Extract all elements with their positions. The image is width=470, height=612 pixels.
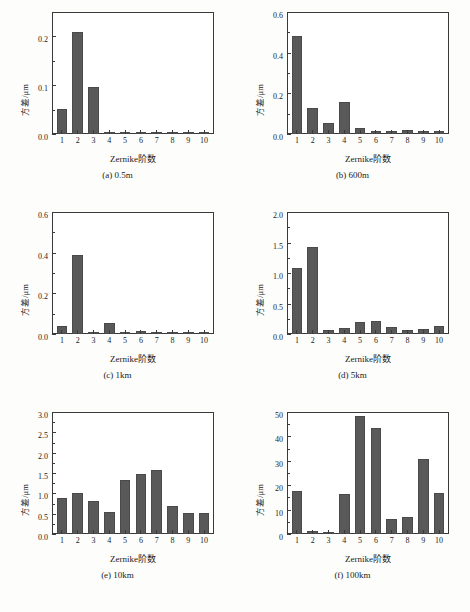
bar-slot [133,212,149,334]
x-axis-title: Zernike阶数 [52,352,214,365]
x-tick-mark [125,530,126,534]
x-tick-label: 10 [200,536,208,545]
x-tick-label: 2 [76,136,80,145]
x-tick-label: 2 [76,336,80,345]
bar-slot [400,12,416,134]
x-tick-label: 6 [374,136,378,145]
x-tick-label: 10 [200,336,208,345]
bar-slot [321,412,337,534]
chart-panel-b: 方差/μm0.00.20.40.612345678910Zernike阶数(b)… [235,0,470,200]
x-tick-label: 10 [435,336,443,345]
x-tick-label: 1 [60,136,64,145]
bar-slot [415,412,431,534]
x-tick-label: 2 [311,336,315,345]
x-tick-label: 4 [342,336,346,345]
bar-slot [180,412,196,534]
x-tick-label: 2 [76,536,80,545]
y-tick-label: 50 [275,412,283,420]
bar-slot [415,212,431,334]
x-tick-label: 6 [374,336,378,345]
bar-slot [289,12,305,134]
x-tick-mark [360,330,361,334]
y-axis-title: 方差/μm [253,484,265,516]
y-axis-title: 方差/μm [253,284,265,316]
x-tick-label: 3 [91,336,95,345]
y-axis-title: 方差/μm [18,84,30,116]
figure-caption [0,600,470,612]
bar [339,494,350,534]
x-tick-mark [439,130,440,134]
y-tick-label: 1.0 [38,493,48,501]
bar [72,493,83,534]
x-tick-label: 9 [186,536,190,545]
bar [292,36,303,134]
y-tick-label: 1.5 [273,243,283,251]
bar [88,87,99,134]
plot-area: 0.00.10.212345678910 [52,12,214,134]
y-tick-label: 3.0 [38,412,48,420]
y-tick-major [287,134,291,135]
x-tick-mark [328,330,329,334]
bar-slot [70,412,86,534]
x-tick-mark [375,330,376,334]
x-tick-label: 7 [155,136,159,145]
bar [434,493,445,534]
x-tick-mark [312,530,313,534]
x-tick-label: 7 [155,336,159,345]
bar-slot [196,412,212,534]
x-tick-mark [328,130,329,134]
bar [292,491,303,534]
x-tick-label: 3 [91,536,95,545]
y-tick-label: 2.5 [38,432,48,440]
x-tick-label: 2 [311,136,315,145]
x-tick-mark [109,530,110,534]
y-tick-label: 0.6 [38,212,48,220]
y-tick-label: 0.0 [38,534,48,542]
x-tick-mark [204,130,205,134]
x-tick-label: 1 [295,136,299,145]
bar-slot [101,412,117,534]
x-tick-mark [312,130,313,134]
x-tick-mark [296,330,297,334]
bar-series [287,12,449,134]
x-tick-mark [439,530,440,534]
y-tick-label: 0.2 [38,36,48,44]
x-tick-label: 4 [107,136,111,145]
chart-panel-d: 方差/μm0.00.51.01.52.012345678910Zernike阶数… [235,200,470,400]
x-tick-mark [156,330,157,334]
x-tick-mark [125,330,126,334]
chart-panel-c: 方差/μm0.00.20.40.612345678910Zernike阶数(c)… [0,200,235,400]
x-tick-mark [93,530,94,534]
panel-subcaption: (b) 600m [235,170,470,180]
bar-slot [149,12,165,134]
bar-slot [336,212,352,334]
bar-slot [196,212,212,334]
bar [151,470,162,534]
bar-slot [86,12,102,134]
y-tick-label: 40 [275,436,283,444]
x-tick-label: 8 [170,136,174,145]
panel-subcaption: (f) 100km [235,570,470,580]
plot-area: 0.00.20.40.612345678910 [287,12,449,134]
x-tick-mark [296,130,297,134]
bar-slot [86,412,102,534]
y-tick-label: 1.0 [273,273,283,281]
bar-slot [305,12,321,134]
x-tick-label: 4 [107,336,111,345]
x-tick-mark [61,330,62,334]
x-tick-label: 8 [170,536,174,545]
x-tick-label: 7 [155,536,159,545]
bar-series [287,412,449,534]
y-tick-label: 30 [275,461,283,469]
bar-slot [149,412,165,534]
x-tick-mark [407,130,408,134]
y-tick-label: 0.5 [273,304,283,312]
bar [307,247,318,334]
y-tick-label: 0.4 [38,253,48,261]
x-tick-mark [407,330,408,334]
x-tick-label: 8 [405,136,409,145]
bar-slot [54,12,70,134]
y-tick-major [287,534,291,535]
x-tick-mark [360,530,361,534]
x-tick-mark [140,530,141,534]
